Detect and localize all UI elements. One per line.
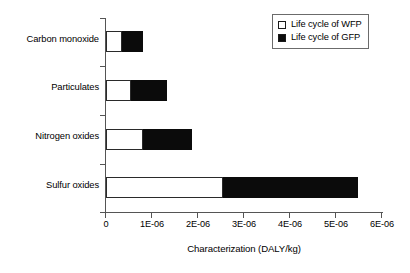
x-axis-tick-label: 2E-06 [176,219,220,230]
x-axis-tick [105,213,106,218]
black-square-icon [278,34,286,42]
bar-segment-gfp-carbon-monoxide [122,31,143,52]
x-axis-tick [289,213,290,218]
category-label-carbon-monoxide: Carbon monoxide [26,33,99,44]
legend-label-gfp: Life cycle of GFP [291,32,360,43]
bar-segment-gfp-nitrogen-oxides [143,129,192,150]
x-axis-tick-label: 4E-06 [268,219,312,230]
y-axis-tick [100,164,105,165]
bar-segment-wfp-carbon-monoxide [106,31,122,52]
legend-label-wfp: Life cycle of WFP [291,19,362,30]
x-axis-tick [151,213,152,218]
bar-segment-wfp-sulfur-oxides [106,177,223,198]
white-square-icon [278,21,286,29]
y-axis-tick [100,66,105,67]
x-axis-tick-label: 5E-06 [314,219,358,230]
legend-item-wfp[interactable]: Life cycle of WFP [278,18,362,31]
x-axis-tick-label: 3E-06 [222,219,266,230]
x-axis-tick-label: 0 [84,219,128,230]
x-axis-tick [197,213,198,218]
x-axis-tick-label: 1E-06 [130,219,174,230]
x-axis-tick [243,213,244,218]
chart-figure: 0 1E-06 2E-06 3E-06 4E-06 5E-06 6E-06 Ca… [0,0,410,273]
legend: Life cycle of WFP Life cycle of GFP [272,14,369,49]
legend-item-gfp[interactable]: Life cycle of GFP [278,31,362,44]
bar-segment-gfp-sulfur-oxides [223,177,358,198]
x-axis-title: Characterization (DALY/kg) [106,243,382,254]
x-axis-tick [381,213,382,218]
x-axis-tick-label: 6E-06 [360,219,404,230]
bar-segment-wfp-nitrogen-oxides [106,129,143,150]
category-label-nitrogen-oxides: Nitrogen oxides [35,130,99,141]
y-axis-tick [100,18,105,19]
bar-segment-gfp-particulates [131,80,167,101]
category-label-particulates: Particulates [51,81,99,92]
bar-segment-wfp-particulates [106,80,131,101]
category-label-sulfur-oxides: Sulfur oxides [46,179,99,190]
y-axis-tick [100,115,105,116]
x-axis-tick [335,213,336,218]
